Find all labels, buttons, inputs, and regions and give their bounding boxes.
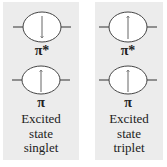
- singlet-pi-orbital: [12, 66, 70, 94]
- singlet-pi-label: π: [21, 96, 61, 110]
- caption-line: state: [95, 127, 163, 142]
- singlet-pi-star-label: π*: [22, 44, 62, 58]
- triplet-caption: Excited state triplet: [95, 112, 163, 156]
- triplet-pi-label: π: [108, 96, 148, 110]
- triplet-pi-orbital: [99, 66, 157, 94]
- caption-line: singlet: [3, 141, 79, 156]
- singlet-caption: Excited state singlet: [3, 112, 79, 156]
- triplet-pi-star-label: π*: [108, 44, 148, 58]
- caption-line: Excited: [3, 112, 79, 127]
- caption-line: Excited: [95, 112, 163, 127]
- triplet-pi-star-orbital: [99, 12, 157, 42]
- caption-line: state: [3, 127, 79, 142]
- singlet-pi-star-orbital: [13, 12, 71, 42]
- caption-line: triplet: [95, 141, 163, 156]
